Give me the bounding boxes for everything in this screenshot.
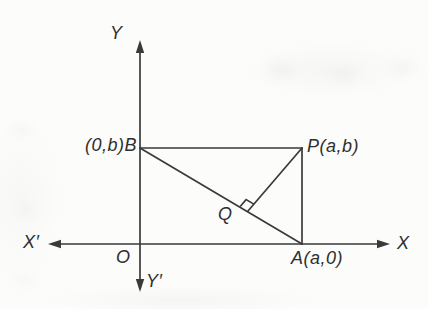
diagram-svg — [0, 0, 428, 309]
point-b-label: (0,b)B — [58, 136, 137, 154]
origin-label: O — [116, 248, 131, 266]
y-prime-axis-label: Y′ — [146, 272, 162, 290]
y-axis-label: Y — [110, 24, 123, 42]
point-a-label: A(a,0) — [291, 249, 343, 267]
point-q-label: Q — [218, 205, 233, 223]
point-p-label: P(a,b) — [307, 137, 359, 155]
x-axis-label: X — [397, 234, 410, 252]
figure-canvas: Y Y′ X X′ O (0,b)B P(a,b) A(a,0) Q — [0, 0, 428, 309]
x-prime-axis-label: X′ — [23, 233, 39, 251]
